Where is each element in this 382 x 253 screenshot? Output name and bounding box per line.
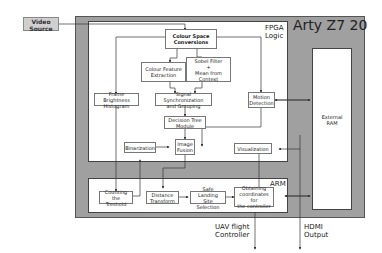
- block-visualization: Visualization: [234, 143, 272, 154]
- block-binarization: Binarization: [124, 142, 156, 153]
- block-signal-sync-grouping: Signal Synchronizationand Grouping: [155, 93, 212, 106]
- block-decision-tree-module: Decision TreeModule: [164, 116, 206, 129]
- block-counting-threshold: Counting theTreshold: [99, 191, 133, 204]
- block-colour-space-conversions: Colour SpaceConversions: [165, 29, 217, 49]
- block-colour-feature-extraction: Colour FeatureExtraction: [141, 62, 186, 82]
- hdmi-output-label: HDMIOutput: [304, 223, 328, 239]
- block-safe-landing-site-selection: Safe LandingSite Selection: [190, 191, 226, 204]
- block-sobel-filter: Sobel Filter+Mean from Context: [186, 57, 231, 82]
- block-motion-detection: MotionDetection: [248, 92, 275, 108]
- block-distance-transform: DistanceTransform: [146, 191, 179, 204]
- block-obtaining-coordinates: Obtainingcoordinates forthe controller: [234, 187, 274, 207]
- block-image-fusion: ImageFusion: [175, 139, 195, 155]
- uav-flight-controller-label: UAV flightController: [215, 223, 249, 239]
- block-frame-brightness-histogram: Frame BrightnessHistogram: [94, 93, 139, 106]
